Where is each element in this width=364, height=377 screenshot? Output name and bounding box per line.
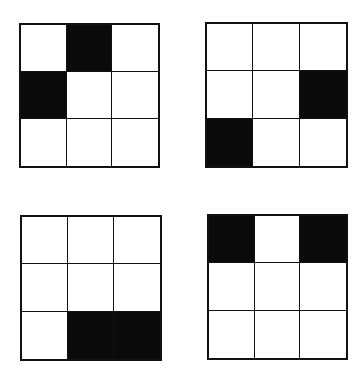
empty-cell-r2-c0 — [22, 312, 68, 359]
empty-cell-r1-c2 — [112, 72, 158, 119]
empty-cell-r2-c2 — [112, 119, 158, 166]
empty-cell-r1-c1 — [68, 264, 114, 311]
empty-cell-r2-c0 — [21, 119, 67, 166]
empty-cell-r0-c2 — [112, 25, 158, 72]
filled-cell-r2-c1 — [68, 312, 114, 359]
empty-cell-r1-c0 — [22, 264, 68, 311]
filled-cell-r1-c2 — [300, 71, 346, 118]
empty-cell-r0-c2 — [114, 217, 160, 264]
empty-cell-r2-c1 — [253, 119, 299, 166]
filled-cell-r2-c0 — [207, 119, 253, 166]
empty-cell-r1-c1 — [67, 72, 113, 119]
filled-cell-r0-c2 — [300, 216, 346, 263]
filled-cell-r1-c0 — [21, 72, 67, 119]
grid-bottom-right — [207, 214, 348, 360]
grid-top-right — [205, 22, 348, 168]
grid-bottom-left — [20, 215, 162, 361]
empty-cell-r0-c0 — [207, 24, 253, 71]
empty-cell-r0-c0 — [22, 217, 68, 264]
filled-cell-r0-c0 — [209, 216, 255, 263]
empty-cell-r1-c1 — [253, 71, 299, 118]
empty-cell-r2-c2 — [300, 119, 346, 166]
empty-cell-r1-c0 — [207, 71, 253, 118]
empty-cell-r2-c0 — [209, 311, 255, 358]
empty-cell-r2-c1 — [255, 311, 301, 358]
empty-cell-r0-c1 — [68, 217, 114, 264]
empty-cell-r1-c0 — [209, 263, 255, 310]
filled-cell-r0-c1 — [67, 25, 113, 72]
empty-cell-r2-c1 — [67, 119, 113, 166]
empty-cell-r1-c1 — [255, 263, 301, 310]
empty-cell-r2-c2 — [300, 311, 346, 358]
empty-cell-r1-c2 — [300, 263, 346, 310]
filled-cell-r2-c2 — [114, 312, 160, 359]
empty-cell-r1-c2 — [114, 264, 160, 311]
empty-cell-r0-c1 — [255, 216, 301, 263]
grid-top-left — [19, 23, 160, 168]
empty-cell-r0-c1 — [253, 24, 299, 71]
empty-cell-r0-c2 — [300, 24, 346, 71]
empty-cell-r0-c0 — [21, 25, 67, 72]
